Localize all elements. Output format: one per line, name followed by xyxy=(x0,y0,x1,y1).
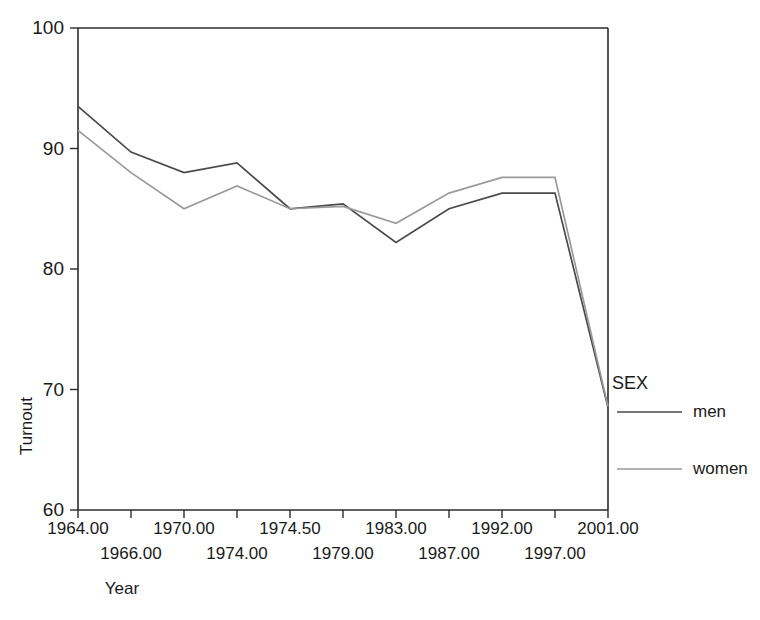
chart-container: 60708090100 1964.001966.001970.001974.00… xyxy=(0,0,760,620)
legend-entries: menwomen xyxy=(617,402,748,478)
y-tick-label: 100 xyxy=(32,17,64,38)
legend-label-men: men xyxy=(693,402,726,421)
y-tick-label: 60 xyxy=(43,499,64,520)
data-series-group xyxy=(78,106,608,407)
x-axis-ticks xyxy=(78,510,608,518)
x-tick-label: 1970.00 xyxy=(153,519,214,538)
line-chart: 60708090100 1964.001966.001970.001974.00… xyxy=(0,0,760,620)
x-tick-label: 1974.50 xyxy=(259,519,320,538)
y-tick-label: 70 xyxy=(43,379,64,400)
x-axis-tick-labels: 1964.001966.001970.001974.001974.501979.… xyxy=(47,519,638,563)
x-tick-label: 1992.00 xyxy=(471,519,532,538)
x-tick-label: 1983.00 xyxy=(365,519,426,538)
y-axis-title: Turnout xyxy=(17,397,36,455)
series-line-women xyxy=(78,130,608,406)
x-tick-label: 1964.00 xyxy=(47,519,108,538)
plot-axes xyxy=(78,28,608,510)
series-line-men xyxy=(78,106,608,407)
y-tick-label: 80 xyxy=(43,258,64,279)
y-axis-ticks: 60708090100 xyxy=(32,17,78,520)
x-tick-label: 1966.00 xyxy=(100,544,161,563)
x-tick-label: 1987.00 xyxy=(418,544,479,563)
legend-label-women: women xyxy=(692,459,748,478)
x-tick-label: 1997.00 xyxy=(524,544,585,563)
x-tick-label: 1974.00 xyxy=(206,544,267,563)
legend-title: SEX xyxy=(612,373,648,393)
x-tick-label: 2001.00 xyxy=(577,519,638,538)
x-tick-label: 1979.00 xyxy=(312,544,373,563)
y-tick-label: 90 xyxy=(43,138,64,159)
x-axis-title: Year xyxy=(105,579,140,598)
legend: SEX menwomen xyxy=(612,373,748,478)
